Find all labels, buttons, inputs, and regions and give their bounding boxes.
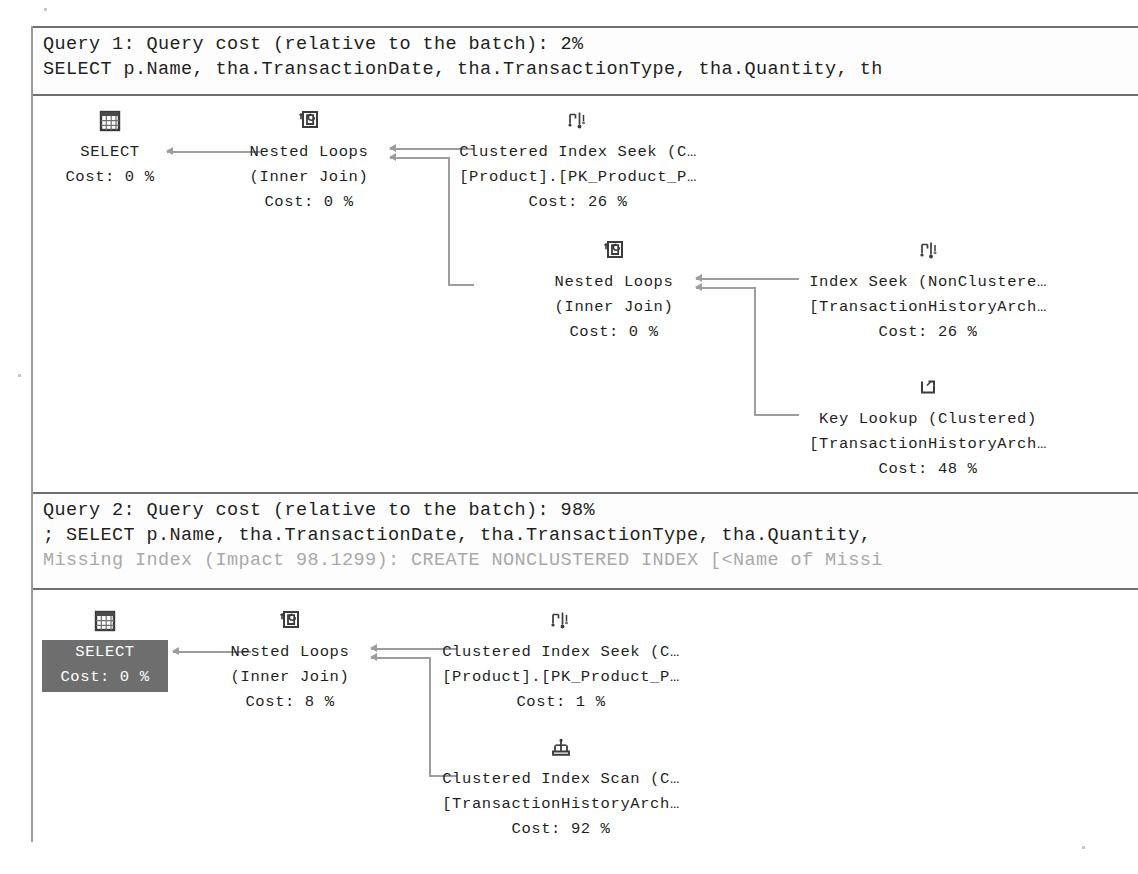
plan-node-clustered-index-scan-1[interactable]: Clustered Index Scan (C… [TransactionHis… — [426, 736, 696, 842]
index-seek-icon — [426, 609, 696, 639]
plan-node-clustered-index-seek-2[interactable]: Clustered Index Seek (C… [Product].[PK_P… — [426, 609, 696, 715]
connector-seek2-to-nestedloops3 — [371, 648, 431, 650]
plan-node-cost: Cost: 92 % — [426, 817, 696, 842]
plan-node-nested-loops-3[interactable]: Nested Loops (Inner Join) Cost: 8 % — [209, 609, 371, 715]
select-result-grid-icon — [42, 609, 168, 639]
connector-arrow-select2 — [172, 647, 179, 655]
plan-node-title: SELECT — [42, 640, 168, 665]
query-2-diagram: SELECT Cost: 0 % Nested Loops (Inner Joi… — [33, 26, 1138, 842]
index-scan-icon — [426, 736, 696, 766]
plan-node-cost: Cost: 8 % — [209, 690, 371, 715]
plan-node-object: [TransactionHistoryArch… — [426, 792, 696, 817]
scan-artifact-speck — [18, 374, 21, 377]
execution-plan-pane: Query 1: Query cost (relative to the bat… — [31, 26, 1136, 842]
scan-artifact-speck — [1082, 846, 1085, 849]
scan-artifact-speck — [44, 8, 47, 11]
plan-node-title: Nested Loops — [209, 640, 371, 665]
nested-loops-icon — [209, 609, 371, 639]
plan-node-title: Clustered Index Seek (C… — [426, 640, 696, 665]
plan-node-select-2[interactable]: SELECT Cost: 0 % — [42, 609, 168, 690]
plan-node-object: [Product].[PK_Product_P… — [426, 665, 696, 690]
plan-node-cost: Cost: 1 % — [426, 690, 696, 715]
connector-scan-to-nestedloops3 — [371, 657, 431, 659]
plan-node-subtitle: (Inner Join) — [209, 665, 371, 690]
connector-arrow-nestedloops3-top — [370, 644, 377, 652]
plan-node-title: Clustered Index Scan (C… — [426, 767, 696, 792]
connector-arrow-nestedloops3-bottom — [370, 653, 377, 661]
plan-node-cost: Cost: 0 % — [42, 665, 168, 690]
